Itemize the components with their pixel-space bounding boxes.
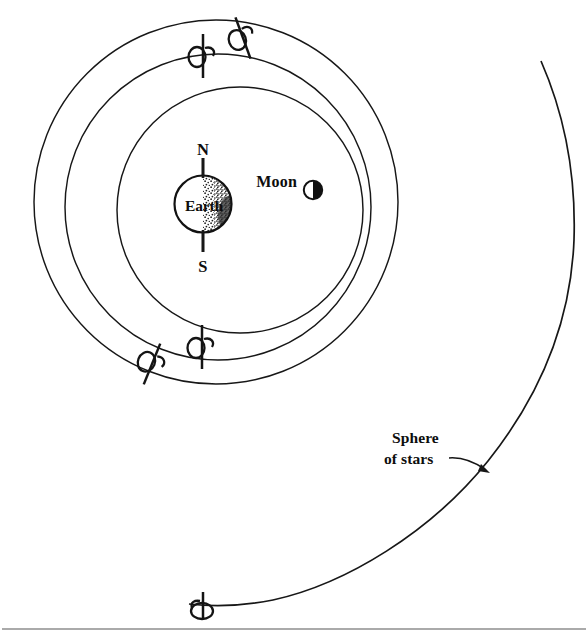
rotation-marker-outer-bottom [130, 338, 170, 388]
north-pole-label: N [197, 140, 209, 159]
sphere-of-stars-label-line2: of stars [384, 450, 433, 467]
rotation-marker-middle-bottom [188, 325, 214, 369]
rotation-markers-group [130, 14, 261, 619]
moon-label: Moon [256, 173, 297, 190]
rotation-marker-stars-bottom [191, 592, 213, 619]
south-pole-label: S [198, 257, 207, 276]
moon-group: Moon [256, 173, 324, 200]
diagram-canvas: N S Earth Moon Sphere of stars [0, 0, 588, 635]
sphere-of-stars-label-line1: Sphere [392, 429, 439, 446]
moon-orbit-circle [117, 87, 363, 333]
sphere-of-stars-callout: Sphere of stars [384, 429, 490, 473]
rotation-curl-loop [135, 349, 158, 374]
rotation-curl-loop [226, 28, 249, 53]
earth-label: Earth [185, 197, 223, 214]
astronomy-figure: N S Earth Moon Sphere of stars [0, 0, 588, 635]
rotation-axis-stub [144, 344, 160, 385]
earth-group: N S Earth [174, 140, 246, 276]
